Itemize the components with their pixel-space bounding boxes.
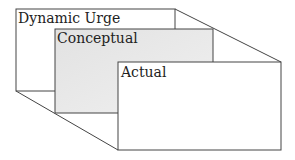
conceptual-label: Conceptual bbox=[57, 31, 138, 45]
dynamic-urge-label: Dynamic Urge bbox=[18, 11, 120, 25]
actual-label: Actual bbox=[121, 65, 166, 79]
